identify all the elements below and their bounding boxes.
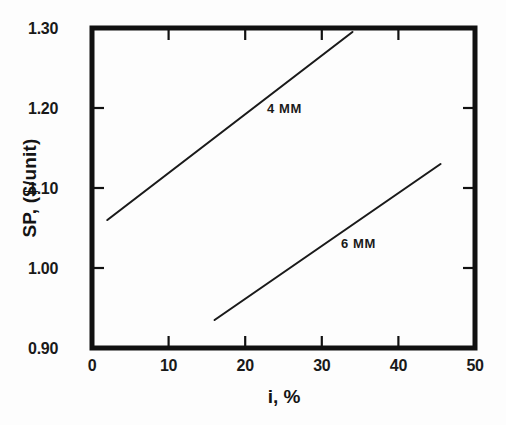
- series-label-6mm: 6 MM: [341, 236, 376, 251]
- series-label-4mm: 4 MM: [267, 101, 302, 116]
- y-tick-label-120: 1.20: [28, 100, 58, 118]
- x-axis-title: i, %: [268, 386, 301, 408]
- x-tick-label-40: 40: [390, 357, 407, 375]
- x-tick-label-20: 20: [237, 357, 254, 375]
- y-tick-label-100: 1.00: [28, 260, 58, 278]
- x-tick-label-0: 0: [88, 357, 97, 375]
- x-tick-label-30: 30: [313, 357, 330, 375]
- series-line-6mm: [215, 164, 441, 320]
- figure-canvas: 1.30 1.20 1.10 1.00 0.90 0 10 20 30 40 5…: [0, 0, 506, 425]
- y-tick-label-110: 1.10: [28, 180, 58, 198]
- x-tick-label-50: 50: [466, 357, 483, 375]
- x-tick-label-10: 10: [160, 357, 177, 375]
- series-line-4mm: [107, 32, 352, 220]
- y-tick-label-130: 1.30: [28, 20, 58, 38]
- y-tick-label-090: 0.90: [28, 340, 58, 358]
